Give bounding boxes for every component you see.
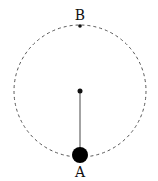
label-a: A: [74, 164, 86, 180]
point-b-marker: [78, 24, 82, 28]
label-b: B: [75, 7, 85, 23]
mass-ball-a: [72, 147, 88, 163]
pivot-point: [78, 89, 83, 94]
diagram-canvas: B A: [0, 0, 158, 181]
